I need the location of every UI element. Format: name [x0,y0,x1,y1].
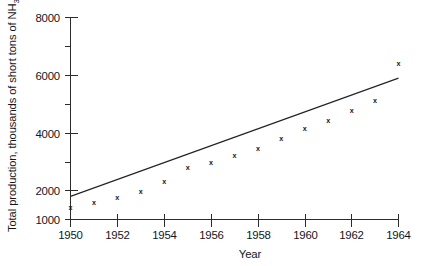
data-point-1964: x [397,59,401,68]
data-point-1959: x [279,134,283,143]
y-axis-label-subscript: 3 [12,0,21,3]
y-tick-label-1000: 1000 [35,214,60,226]
data-point-1960: x [303,124,307,133]
data-point-markers: xxxxxxxxxxxxxxx [69,59,401,213]
data-point-1952: x [115,193,119,202]
x-tick-label-1952: 1952 [105,229,130,241]
data-point-1950: x [69,203,73,212]
data-point-1958: x [256,144,260,153]
data-point-1951: x [92,198,96,207]
data-point-1963: x [373,96,377,105]
axes [71,17,399,220]
x-tick-label-1950: 1950 [58,229,83,241]
y-tick-label-8000: 8000 [35,12,60,24]
y-tick-label-2000: 2000 [35,185,60,197]
data-point-1955: x [186,163,190,172]
data-point-1953: x [139,187,143,196]
data-point-1954: x [162,177,166,186]
trend-line [71,78,399,196]
data-point-1962: x [350,106,354,115]
x-tick-label-1954: 1954 [152,229,177,241]
production-scatter-chart: Total production, thousands of short ton… [0,0,424,266]
svg-text:Total production, thousands of: Total production, thousands of short ton… [6,0,21,232]
data-point-1957: x [233,151,237,160]
x-axis-label: Year [239,248,262,260]
x-tick-label-1962: 1962 [339,229,364,241]
chart-figure: Total production, thousands of short ton… [0,0,424,266]
y-axis-minor-ticks [65,47,71,163]
y-axis-label-main: Total production, thousands of short ton… [6,3,18,232]
x-tick-label-1956: 1956 [199,229,224,241]
data-point-1961: x [326,116,330,125]
x-tick-label-1960: 1960 [293,229,318,241]
y-axis-tick-labels: 8000 6000 4000 2000 1000 [35,12,60,226]
y-tick-label-6000: 6000 [35,70,60,82]
y-tick-label-4000: 4000 [35,128,60,140]
x-tick-label-1958: 1958 [246,229,271,241]
data-point-1956: x [209,158,213,167]
y-axis-label: Total production, thousands of short ton… [6,0,21,232]
x-axis-tick-labels: 1950 1952 1954 1956 1958 1960 1962 1964 [58,229,411,241]
x-tick-label-1964: 1964 [386,229,411,241]
